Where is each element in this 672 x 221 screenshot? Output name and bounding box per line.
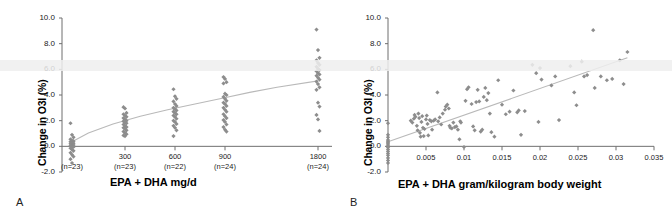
data-point bbox=[574, 103, 578, 107]
data-point bbox=[457, 137, 461, 141]
panel-b-plot bbox=[336, 0, 672, 221]
data-point bbox=[553, 74, 557, 78]
data-point bbox=[422, 134, 426, 138]
panel-a-plot bbox=[0, 0, 336, 221]
data-point bbox=[471, 124, 475, 128]
data-point bbox=[625, 50, 629, 54]
data-point bbox=[68, 157, 72, 161]
data-point bbox=[593, 86, 597, 90]
data-point bbox=[386, 121, 390, 125]
data-point bbox=[386, 161, 390, 165]
data-point bbox=[438, 115, 442, 119]
data-point bbox=[443, 108, 447, 112]
data-point bbox=[314, 88, 318, 92]
data-point bbox=[425, 113, 429, 117]
data-point bbox=[474, 100, 478, 104]
data-point bbox=[424, 117, 428, 121]
data-point bbox=[430, 128, 434, 132]
data-point bbox=[314, 113, 318, 117]
data-point bbox=[441, 112, 445, 116]
data-point bbox=[68, 121, 72, 125]
data-point bbox=[580, 60, 584, 64]
data-point bbox=[539, 78, 543, 82]
data-point bbox=[463, 99, 467, 103]
data-point bbox=[470, 102, 474, 106]
data-point bbox=[599, 74, 603, 78]
data-point bbox=[572, 90, 576, 94]
data-point bbox=[496, 78, 500, 82]
data-point bbox=[618, 58, 622, 62]
data-point bbox=[435, 90, 439, 94]
panel-a-fit-curve bbox=[72, 81, 318, 142]
panel-a: Change in O3I (%) EPA + DHA mg/d A 10.08… bbox=[0, 0, 336, 221]
figure-container: Change in O3I (%) EPA + DHA mg/d A 10.08… bbox=[0, 0, 672, 221]
data-point bbox=[316, 117, 320, 121]
data-point bbox=[489, 130, 493, 134]
data-point bbox=[557, 118, 561, 122]
data-point bbox=[316, 101, 320, 105]
panel-b: Change in O3I (%) EPA + DHA gram/kilogra… bbox=[336, 0, 672, 221]
data-point bbox=[605, 78, 609, 82]
data-point bbox=[486, 91, 490, 95]
data-point bbox=[416, 112, 420, 116]
data-point bbox=[504, 112, 508, 116]
data-point bbox=[317, 56, 321, 60]
data-point bbox=[477, 99, 481, 103]
data-point bbox=[485, 98, 489, 102]
data-point bbox=[622, 82, 626, 86]
data-point bbox=[171, 87, 175, 91]
data-point bbox=[508, 110, 512, 114]
data-point bbox=[488, 112, 492, 116]
data-point bbox=[415, 124, 419, 128]
data-point bbox=[538, 66, 542, 70]
data-point bbox=[568, 64, 572, 68]
data-point bbox=[473, 128, 477, 132]
data-point bbox=[511, 88, 515, 92]
data-point bbox=[451, 120, 455, 124]
data-point bbox=[500, 103, 504, 107]
data-point bbox=[419, 135, 423, 139]
data-point bbox=[316, 48, 320, 52]
data-point bbox=[426, 133, 430, 137]
data-point bbox=[425, 122, 429, 126]
data-point bbox=[536, 120, 540, 124]
data-point bbox=[492, 135, 496, 139]
data-point bbox=[419, 120, 423, 124]
data-point bbox=[317, 129, 321, 133]
data-point bbox=[519, 133, 523, 137]
data-point bbox=[482, 95, 486, 99]
data-point bbox=[530, 63, 534, 67]
data-point bbox=[314, 27, 318, 31]
data-point bbox=[610, 77, 614, 81]
data-point bbox=[171, 134, 175, 138]
data-point bbox=[591, 28, 595, 32]
data-point bbox=[317, 104, 321, 108]
data-point bbox=[534, 71, 538, 75]
data-point bbox=[483, 86, 487, 90]
data-point bbox=[523, 109, 527, 113]
data-point bbox=[476, 88, 480, 92]
data-point bbox=[462, 145, 466, 149]
